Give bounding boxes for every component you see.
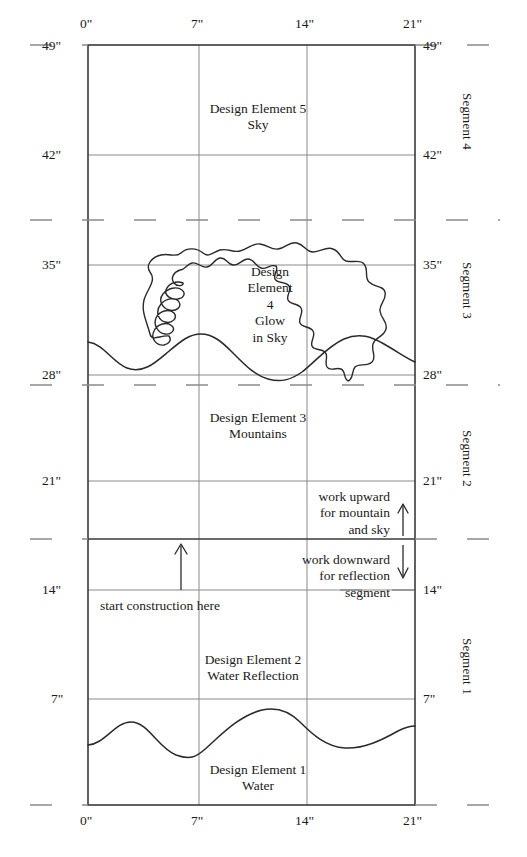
segment-label-3: Segment 3	[459, 262, 475, 319]
design-element-4-line4: Glow	[225, 313, 315, 329]
y-tick-left-28: 28"	[42, 367, 61, 383]
y-tick-left-49: 49"	[42, 38, 61, 54]
work-upward-note: work upward for mountain and sky	[250, 489, 390, 538]
design-element-3-line1: Design Element 3	[148, 410, 368, 426]
y-tick-left-7: 7"	[51, 691, 63, 707]
work-upward-line2: for mountain	[250, 505, 390, 521]
work-downward-arrow	[398, 545, 408, 578]
x-tick-bottom-0: 0"	[80, 813, 92, 829]
design-element-1-line2: Water	[148, 778, 368, 794]
design-element-3-line2: Mountains	[148, 426, 368, 442]
y-tick-left-21: 21"	[42, 473, 61, 489]
segment-label-2: Segment 2	[459, 430, 475, 487]
work-upward-line3: and sky	[250, 522, 390, 538]
start-construction-arrow	[175, 544, 187, 590]
y-tick-left-35: 35"	[42, 257, 61, 273]
y-tick-right-7: 7"	[423, 691, 435, 707]
design-element-1-label: Design Element 1 Water	[148, 762, 368, 795]
work-upward-line1: work upward	[250, 489, 390, 505]
y-tick-right-28: 28"	[423, 367, 442, 383]
y-tick-right-49: 49"	[423, 38, 442, 54]
work-downward-line1: work downward	[250, 552, 390, 568]
x-tick-top-21: 21"	[403, 16, 422, 32]
x-tick-bottom-21: 21"	[403, 813, 422, 829]
y-tick-left-42: 42"	[42, 147, 61, 163]
y-tick-left-14: 14"	[42, 582, 61, 598]
work-upward-arrow	[398, 504, 408, 536]
design-element-1-line1: Design Element 1	[148, 762, 368, 778]
segment-label-1: Segment 1	[459, 638, 475, 695]
segment-label-4: Segment 4	[459, 93, 475, 150]
design-element-2-label: Design Element 2 Water Reflection	[138, 652, 368, 685]
design-element-3-label: Design Element 3 Mountains	[148, 410, 368, 443]
y-tick-right-14: 14"	[423, 582, 442, 598]
quilt-diagram: 0" 7" 14" 21" 0" 7" 14" 21" 49" 42" 35" …	[0, 0, 527, 857]
design-element-5-line1: Design Element 5	[148, 101, 368, 117]
design-element-2-line1: Design Element 2	[138, 652, 368, 668]
design-element-4-line2: Element	[225, 280, 315, 296]
design-element-5-line2: Sky	[148, 117, 368, 133]
x-tick-top-0: 0"	[80, 16, 92, 32]
work-downward-line2: for reflection	[250, 568, 390, 584]
x-tick-top-14: 14"	[295, 16, 314, 32]
y-tick-right-35: 35"	[423, 257, 442, 273]
design-element-2-line2: Water Reflection	[138, 668, 368, 684]
work-downward-line3: segment	[250, 585, 390, 601]
x-tick-bottom-14: 14"	[295, 813, 314, 829]
design-element-4-line3: 4	[225, 297, 315, 313]
work-downward-note: work downward for reflection segment	[250, 552, 390, 601]
design-element-5-label: Design Element 5 Sky	[148, 101, 368, 134]
x-tick-top-7: 7"	[191, 16, 203, 32]
design-element-4-label: Design Element 4 Glow in Sky	[225, 264, 315, 346]
design-element-4-line5: in Sky	[225, 330, 315, 346]
y-tick-right-21: 21"	[423, 473, 442, 489]
design-element-4-line1: Design	[225, 264, 315, 280]
start-construction-note: start construction here	[100, 598, 220, 614]
y-tick-right-42: 42"	[423, 147, 442, 163]
x-tick-bottom-7: 7"	[191, 813, 203, 829]
water-wave-path	[88, 709, 415, 758]
